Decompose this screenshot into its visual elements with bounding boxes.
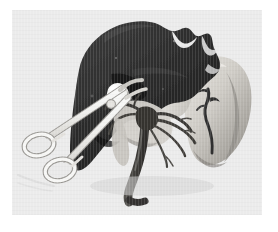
specimen-cast-shadow xyxy=(90,176,214,196)
liver-speck-2 xyxy=(173,40,175,42)
liver-speck-1 xyxy=(115,57,117,59)
liver-speck-3 xyxy=(91,95,94,98)
liver-speck-4 xyxy=(162,88,164,90)
forceps-pivot xyxy=(107,100,116,109)
figure-root xyxy=(0,0,278,232)
photograph-canvas xyxy=(12,10,262,215)
portal-trunk-foot xyxy=(129,200,145,202)
anatomical-photograph xyxy=(12,10,262,215)
